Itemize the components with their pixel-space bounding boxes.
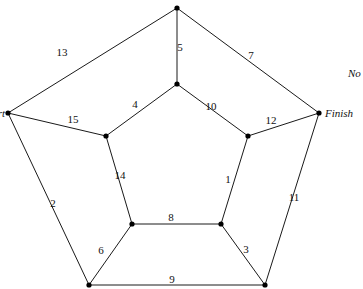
edge-weight-label: 12 [266,114,277,126]
edge-inner_right-finish [248,113,319,136]
edge-weight-label: 14 [115,169,127,181]
edge-inner_top-inner_left [106,84,177,136]
node-inner-left [103,133,108,138]
edge-weight-label: 9 [169,273,175,285]
edge-weight-label: 1 [225,173,231,185]
edge-weight-label: 8 [168,211,174,223]
node-outer-top [174,5,179,10]
edge-weight-label: 4 [132,98,138,110]
edge-start-outer_bottom_left [8,113,89,285]
node-outer-bottom-left [86,282,91,287]
edge-start-inner_left [8,113,106,136]
edge-weight-label: 3 [243,243,249,255]
weighted-graph-diagram: 137515410121412118639 Start Start Finish… [0,0,363,289]
node-inner-top [174,81,179,86]
start-label: Start [0,107,6,119]
node-inner-bottom-right [218,221,223,226]
edge-weight-label: 10 [206,100,218,112]
node-start [5,110,10,115]
edge-weight-label: 15 [68,113,80,125]
edge-weight-label: 6 [98,244,104,256]
edge-weight-label: 5 [177,41,183,53]
edge-inner_bottom_left-outer_bottom_left [89,224,132,285]
node-finish [316,110,321,115]
edge-weight-labels: 137515410121412118639 [50,41,299,285]
node-inner-bottom-left [129,221,134,226]
edge-weight-label: 13 [57,46,69,58]
clipped-note-text: No [347,67,361,79]
edge-weight-label: 7 [248,49,254,61]
edge-weight-label: 2 [50,197,56,209]
finish-label: Finish [324,107,354,119]
edge-weight-label: 11 [289,191,300,203]
edge-start-outer_top [8,8,177,113]
graph-edges [8,8,319,285]
node-inner-right [245,133,250,138]
graph-nodes [5,5,321,287]
node-outer-bottom-right [262,282,267,287]
